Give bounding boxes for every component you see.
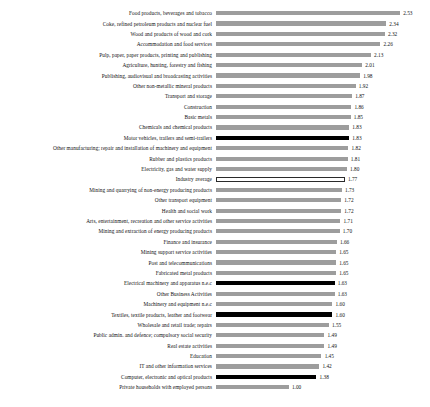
bar-category-label: Rubber and plastics products	[0, 156, 216, 162]
bar-value-label: 2.34	[386, 21, 398, 27]
bar-value-label: 1.71	[340, 218, 352, 224]
bar-category-label: IT and other information services	[0, 363, 216, 369]
bar	[216, 354, 321, 358]
bar-value-label: 1.55	[329, 322, 341, 328]
bar	[216, 198, 341, 202]
bar	[216, 157, 348, 161]
bar-category-label: Health and social work	[0, 208, 216, 214]
bar-category-label: Construction	[0, 104, 216, 110]
bar	[216, 94, 352, 98]
bar-value-label: 1.92	[356, 83, 368, 89]
bar-track: 1.72	[216, 195, 430, 205]
bar-value-label: 1.86	[351, 104, 363, 110]
bar	[216, 219, 340, 223]
bar-highlighted	[216, 375, 316, 379]
bar-row: Accommodation and food services2.26	[0, 39, 430, 49]
bar	[216, 53, 371, 57]
bar-category-label: Basic metals	[0, 114, 216, 120]
bar-category-label: Textiles, textile products, leather and …	[0, 312, 216, 318]
bar	[216, 146, 348, 150]
bar-value-label: 2.32	[385, 31, 397, 37]
bar-track: 1.60	[216, 299, 430, 309]
bar-category-label: Mining and extraction of energy producin…	[0, 228, 216, 234]
bar-row: Public admin. and defence; compulsory so…	[0, 330, 430, 340]
bar-row: IT and other information services1.42	[0, 361, 430, 371]
bar-track: 1.65	[216, 257, 430, 267]
bar-row: Construction1.86	[0, 102, 430, 112]
bar-track: 2.13	[216, 50, 430, 60]
bar-track: 1.85	[216, 112, 430, 122]
bar-value-label: 1.72	[341, 208, 353, 214]
bar-value-label: 2.13	[371, 52, 383, 58]
bar-value-label: 1.66	[337, 239, 349, 245]
bar	[216, 250, 336, 254]
bar-value-label: 1.98	[360, 73, 372, 79]
bar-value-label: 1.87	[352, 93, 364, 99]
bar-value-label: 2.26	[380, 41, 392, 47]
bar-value-label: 2.01	[362, 62, 374, 68]
bar-category-label: Mining support service activities	[0, 249, 216, 255]
bar-category-label: Arts, entertainment, recreation and othe…	[0, 218, 216, 224]
bar	[216, 42, 380, 46]
bar-category-label: Electrical machinery and apparatus n.e.c	[0, 280, 216, 286]
bar-category-label: Post and telecommunications	[0, 260, 216, 266]
bar-track: 1.65	[216, 247, 430, 257]
bar-track: 1.49	[216, 330, 430, 340]
bar-value-label: 1.80	[347, 166, 359, 172]
bar	[216, 125, 349, 129]
bar-category-label: Fabricated metal products	[0, 270, 216, 276]
bar	[216, 115, 351, 119]
bar	[216, 84, 356, 88]
bar-row: Transport and storage1.87	[0, 91, 430, 101]
bar-category-label: Private households with employed persons	[0, 384, 216, 390]
bar-track: 1.63	[216, 289, 430, 299]
bar	[216, 385, 289, 389]
bar	[216, 260, 336, 264]
horizontal-bar-chart: Food products, beverages and tobacco2.53…	[0, 0, 430, 407]
bar-row: Fabricated metal products1.65	[0, 268, 430, 278]
bar-value-label: 1.65	[336, 260, 348, 266]
bar-row: Motor vehicles, trailers and semi-traile…	[0, 133, 430, 143]
bar-category-label: Chemicals and chemical products	[0, 124, 216, 130]
bar	[216, 32, 385, 36]
bar	[216, 333, 324, 337]
bar-value-label: 1.42	[319, 363, 331, 369]
bar-category-label: Transport and storage	[0, 93, 216, 99]
bar-category-label: Food products, beverages and tobacco	[0, 10, 216, 16]
bar-row: Textiles, textile products, leather and …	[0, 309, 430, 319]
bar-row: Electrical machinery and apparatus n.e.c…	[0, 278, 430, 288]
bar	[216, 292, 335, 296]
bar-track: 2.01	[216, 60, 430, 70]
bar	[216, 240, 337, 244]
bar-category-label: Other manufacturing; repair and installa…	[0, 145, 216, 151]
bar-track: 1.45	[216, 351, 430, 361]
bar-track: 1.63	[216, 278, 430, 288]
bar-category-label: Wood and products of wood and cork	[0, 31, 216, 37]
bar-track: 1.80	[216, 164, 430, 174]
bar-highlighted	[216, 281, 335, 285]
bar-value-label: 1.70	[340, 228, 352, 234]
bar-category-label: Industry average	[0, 176, 216, 182]
bar-value-label: 1.49	[324, 332, 336, 338]
bar-category-label: Education	[0, 353, 216, 359]
bar-value-label: 1.45	[321, 353, 333, 359]
bar-row: Finance and insurance1.66	[0, 237, 430, 247]
bar-value-label: 1.73	[342, 187, 354, 193]
bar-row: Computer, electronic and optical product…	[0, 372, 430, 382]
bar-track: 1.70	[216, 226, 430, 236]
bar-track: 1.77	[216, 174, 430, 184]
bar-track: 2.32	[216, 29, 430, 39]
bar-category-label: Accommodation and food services	[0, 41, 216, 47]
bar	[216, 188, 342, 192]
bar-value-label: 2.53	[400, 10, 412, 16]
bar-row: Mining support service activities1.65	[0, 247, 430, 257]
bar	[216, 344, 324, 348]
bar-value-label: 1.49	[324, 343, 336, 349]
bar-row: Wood and products of wood and cork2.32	[0, 29, 430, 39]
bar-track: 1.73	[216, 185, 430, 195]
bar	[216, 11, 400, 15]
bar-row: Other manufacturing; repair and installa…	[0, 143, 430, 153]
bar-row: Machinery and equipment n.e.c1.60	[0, 299, 430, 309]
bar	[216, 323, 329, 327]
bar-highlighted	[216, 312, 332, 316]
